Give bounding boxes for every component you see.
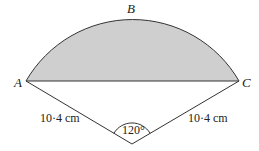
side-left-length: 10·4 cm (40, 112, 80, 124)
angle-label: 120° (122, 124, 145, 136)
label-b: B (127, 2, 135, 15)
label-a: A (14, 76, 22, 89)
label-c: C (242, 76, 251, 89)
sector-diagram: B A C 10·4 cm 10·4 cm 120° (0, 0, 259, 151)
side-right-length: 10·4 cm (188, 112, 228, 124)
shaded-segment (26, 20, 239, 81)
